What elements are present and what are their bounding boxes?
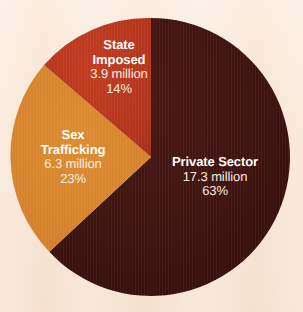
pie-chart-figure: State Imposed 3.9 million 14% Sex Traffi… [0,0,303,312]
pie-label-state-imposed-title-line1: State [61,38,177,53]
pie-label-private-sector-value: 17.3 million [156,170,274,185]
pie-label-sex-trafficking: Sex Trafficking 6.3 million 23% [14,128,132,186]
pie-label-state-imposed-value: 3.9 million [61,67,177,82]
pie-label-sex-trafficking-title-line1: Sex [14,128,132,143]
pie-label-private-sector-title: Private Sector [156,155,274,170]
pie-label-sex-trafficking-percent: 23% [14,172,132,187]
pie-label-state-imposed-title-line2: Imposed [61,53,177,68]
pie-label-state-imposed-percent: 14% [61,82,177,97]
pie-label-state-imposed: State Imposed 3.9 million 14% [61,38,177,96]
pie-label-sex-trafficking-title-line2: Trafficking [14,143,132,158]
pie-label-private-sector: Private Sector 17.3 million 63% [156,155,274,199]
pie-label-private-sector-percent: 63% [156,184,274,199]
pie-label-sex-trafficking-value: 6.3 million [14,157,132,172]
